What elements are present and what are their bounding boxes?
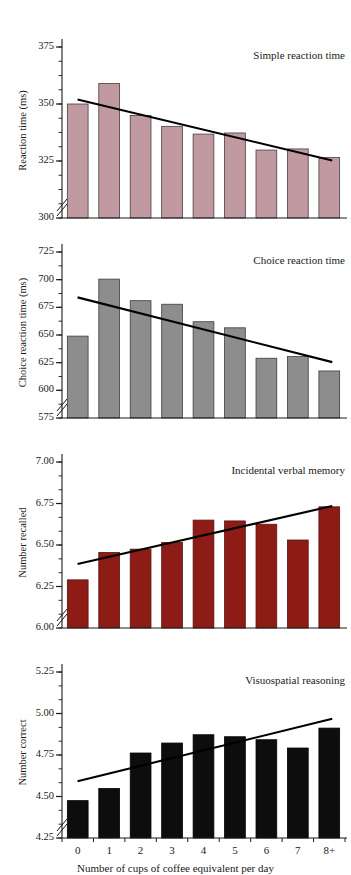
x-tick-label: 6 (251, 844, 282, 856)
bar (67, 801, 88, 838)
x-tick-label: 7 (282, 844, 313, 856)
bar (287, 748, 308, 838)
x-tick-label: 1 (93, 844, 124, 856)
x-tick-label: 8+ (314, 844, 345, 856)
x-tick-label: 2 (125, 844, 156, 856)
y-tick-label: 4.50 (36, 790, 54, 801)
y-axis-label: Number correct (17, 670, 28, 836)
y-tick-label: 4.75 (36, 748, 54, 759)
x-axis-label: Number of cups of coffee equivalent per … (0, 862, 351, 874)
bar (99, 789, 120, 838)
y-tick-label: 4.25 (36, 831, 54, 842)
x-tick-label: 4 (188, 844, 219, 856)
panel-title: Visuospatial reasoning (245, 674, 345, 686)
y-tick-label: 5.25 (36, 665, 54, 676)
x-tick-label: 0 (62, 844, 93, 856)
bar (225, 737, 246, 838)
x-tick-label: 5 (219, 844, 250, 856)
plot-area-4 (0, 0, 351, 875)
x-tick-label: 3 (156, 844, 187, 856)
bar (256, 740, 277, 838)
coffee-cognition-figure: Simple reaction time300325350375Reaction… (0, 0, 351, 875)
bar (319, 728, 340, 838)
y-tick-label: 5.00 (36, 707, 54, 718)
